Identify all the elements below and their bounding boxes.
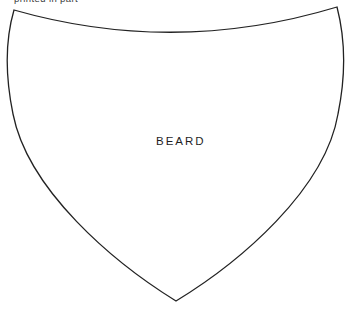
scanned-page: printed in part BEARD xyxy=(0,0,346,312)
shield-figure: BEARD xyxy=(0,0,346,312)
shield-label: BEARD xyxy=(156,135,206,147)
shield-outline xyxy=(7,7,343,301)
